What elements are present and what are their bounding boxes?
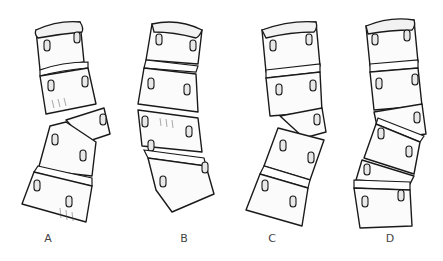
vertebrae-illustration: A (0, 0, 443, 261)
panel-label-a: A (38, 232, 58, 245)
vertebral-column-b-drawing (110, 0, 220, 261)
panel-c: C (220, 0, 330, 261)
vertebral-column-c-drawing (220, 0, 330, 261)
panel-b: B (110, 0, 220, 261)
vertebra-a2 (40, 68, 96, 114)
vertebra-d1 (366, 19, 418, 66)
vertebra-b2 (138, 68, 198, 112)
vertebra-d2 (370, 68, 422, 110)
vertebra-b1 (146, 22, 202, 64)
vertebra-b4 (148, 158, 214, 212)
panel-label-c: C (262, 232, 282, 245)
vertebra-b3 (138, 110, 202, 152)
panel-a: A (0, 0, 120, 261)
vertebral-column-a-drawing (0, 0, 120, 261)
panel-label-b: B (174, 232, 194, 245)
vertebral-column-d-drawing (330, 0, 443, 261)
panel-d: D (330, 0, 443, 261)
vertebra-d6 (354, 188, 412, 228)
panel-label-d: D (380, 232, 400, 245)
